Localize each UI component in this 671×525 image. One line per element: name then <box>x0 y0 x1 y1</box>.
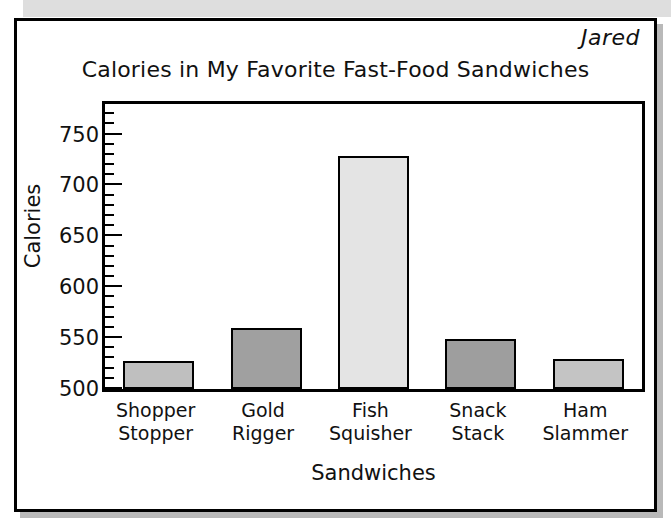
category-label-line1: Fish <box>352 399 389 421</box>
y-axis-tick-label: 650 <box>59 224 99 248</box>
bar-ham-slammer <box>553 359 624 389</box>
category-label-line1: Ham <box>563 399 607 421</box>
author-name: Jared <box>581 25 640 50</box>
category-label-line2: Slammer <box>532 422 639 445</box>
category-label-line2: Stopper <box>102 422 209 445</box>
scan-shadow-right <box>657 24 663 518</box>
plot-area: 500550600650700750 <box>102 101 645 392</box>
x-axis-title: Sandwiches <box>102 461 645 485</box>
category-label-line1: Gold <box>241 399 285 421</box>
y-axis-tick-label: 750 <box>59 123 99 147</box>
category-label-line2: Squisher <box>317 422 424 445</box>
x-axis-category-ham-slammer: HamSlammer <box>532 399 639 445</box>
y-axis-title: Calories <box>21 184 45 269</box>
y-axis-tick-label: 550 <box>59 326 99 350</box>
y-axis-tick-label: 600 <box>59 275 99 299</box>
x-axis-category-gold-rigger: GoldRigger <box>209 399 316 445</box>
bar-fish-squisher <box>338 156 409 389</box>
x-axis-category-labels: ShopperStopperGoldRiggerFishSquisherSnac… <box>102 399 645 457</box>
category-label-line2: Rigger <box>209 422 316 445</box>
category-label-line1: Snack <box>449 399 506 421</box>
y-axis-tick-label: 700 <box>59 173 99 197</box>
bar-shopper-stopper <box>123 361 194 390</box>
chart-title: Calories in My Favorite Fast-Food Sandwi… <box>17 57 654 82</box>
y-axis-tick-label: 500 <box>59 377 99 401</box>
scan-shadow-bottom <box>20 512 663 518</box>
scanned-page: Jared Calories in My Favorite Fast-Food … <box>0 0 671 525</box>
chart-card: Jared Calories in My Favorite Fast-Food … <box>14 18 657 512</box>
bar-snack-stack <box>445 339 516 389</box>
x-axis-category-fish-squisher: FishSquisher <box>317 399 424 445</box>
bars-layer <box>105 104 642 389</box>
scan-top-strip <box>23 0 671 17</box>
x-axis-category-shopper-stopper: ShopperStopper <box>102 399 209 445</box>
bar-gold-rigger <box>231 328 302 389</box>
x-axis-category-snack-stack: SnackStack <box>424 399 531 445</box>
category-label-line2: Stack <box>424 422 531 445</box>
category-label-line1: Shopper <box>116 399 195 421</box>
